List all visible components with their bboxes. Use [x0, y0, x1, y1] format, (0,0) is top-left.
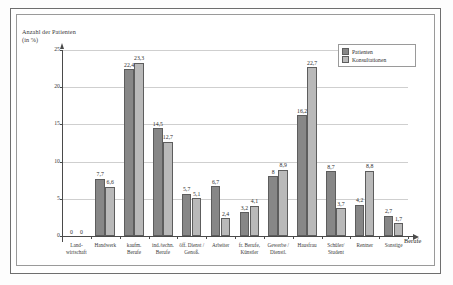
y-tick-label: 15: [34, 120, 60, 126]
chart-legend: Patienten Konsultationen: [338, 44, 416, 67]
y-tick-label: 20: [34, 83, 60, 89]
bar[interactable]: [365, 171, 375, 236]
x-tick-mark: [91, 236, 92, 239]
bar[interactable]: [394, 223, 404, 236]
bar-value-label: 8,9: [275, 162, 291, 168]
bar-group: 8,73,7Schüler/ Student: [322, 50, 351, 236]
bar-value-label: 2,7: [381, 208, 397, 214]
bar-group: 5,75,1öff. Dienst / Genoß.: [177, 50, 206, 236]
legend-label: Patienten: [352, 49, 373, 55]
chart-page: Anzahl der Patienten (in %) 0510152025 0…: [0, 0, 453, 285]
bar-value-label: 8,7: [323, 164, 339, 170]
y-axis-arrow-icon: [60, 43, 64, 49]
bar-value-label: 2,4: [218, 211, 234, 217]
bar-group: 7,76,6Handwerk: [91, 50, 120, 236]
bar[interactable]: [250, 206, 260, 237]
x-tick-mark: [264, 236, 265, 239]
bar-group: 00Land- wirtschaft: [62, 50, 91, 236]
x-axis-line: [62, 236, 414, 237]
bar-group: 4,28,8Rentner: [350, 50, 379, 236]
bar[interactable]: [192, 198, 202, 236]
bar-group-end: [408, 50, 409, 236]
legend-item[interactable]: Patienten: [342, 48, 412, 55]
x-tick-mark: [149, 236, 150, 239]
bar-group: 22,423,3kaufm. Berufe: [120, 50, 149, 236]
bar-value-label: 6,7: [208, 179, 224, 185]
x-tick-mark: [62, 236, 63, 239]
bar[interactable]: [95, 179, 105, 236]
y-tick-label: 25: [34, 46, 60, 52]
legend-label: Konsultationen: [352, 57, 386, 63]
bar-value-label: 7,7: [92, 171, 108, 177]
bar-value-label: 23,3: [131, 55, 147, 61]
plot-area: 0510152025 00Land- wirtschaft7,76,6Handw…: [62, 50, 408, 236]
bar-value-label: 22,7: [304, 60, 320, 66]
bar[interactable]: [221, 218, 231, 236]
bar-group: 3,24,1fr. Berufe, Künstler: [235, 50, 264, 236]
bar[interactable]: [278, 170, 288, 236]
bar[interactable]: [268, 176, 278, 236]
x-tick-mark: [120, 236, 121, 239]
bar[interactable]: [336, 208, 346, 236]
x-tick-mark: [177, 236, 178, 239]
y-axis-title: Anzahl der Patienten (in %): [22, 28, 84, 44]
x-tick-mark: [322, 236, 323, 239]
x-tick-mark: [293, 236, 294, 239]
bar-value-label: 1,7: [391, 216, 407, 222]
bar[interactable]: [240, 212, 250, 236]
bar-value-label: 12,7: [160, 134, 176, 140]
bar[interactable]: [134, 63, 144, 236]
x-tick-mark: [206, 236, 207, 239]
x-tick-mark: [379, 236, 380, 239]
bar-value-label: 14,5: [150, 121, 166, 127]
y-tick-label: 5: [34, 195, 60, 201]
legend-item[interactable]: Konsultationen: [342, 56, 412, 63]
x-tick-mark: [235, 236, 236, 239]
bar[interactable]: [153, 128, 163, 236]
legend-swatch-patienten: [342, 48, 349, 55]
bar-value-label: 4,1: [247, 198, 263, 204]
bar-group: 6,72,4Arbeiter: [206, 50, 235, 236]
y-tick-label: 10: [34, 158, 60, 164]
bar[interactable]: [297, 115, 307, 236]
x-axis-title: Berufe: [404, 237, 421, 244]
bar[interactable]: [105, 187, 115, 236]
bar-value-label: 3,7: [333, 201, 349, 207]
bar-value-label: 0: [74, 229, 90, 235]
bar[interactable]: [163, 142, 173, 236]
x-tick-mark: [350, 236, 351, 239]
bar-value-label: 6,6: [102, 179, 118, 185]
bar-value-label: 8,8: [362, 163, 378, 169]
bar-group: 2,71,7Sonstige: [379, 50, 408, 236]
bar-value-label: 5,1: [189, 191, 205, 197]
bar-group: 14,512,7ind./techn. Berufe: [149, 50, 178, 236]
bar-group: 16,222,7Hausfrau: [293, 50, 322, 236]
bar[interactable]: [307, 67, 317, 236]
bar[interactable]: [124, 69, 134, 236]
bar[interactable]: [355, 205, 365, 236]
legend-swatch-konsultationen: [342, 56, 349, 63]
bar-group: 88,9Gewerbe / Dienstl.: [264, 50, 293, 236]
bar[interactable]: [182, 194, 192, 236]
y-tick-label: 0: [34, 232, 60, 238]
